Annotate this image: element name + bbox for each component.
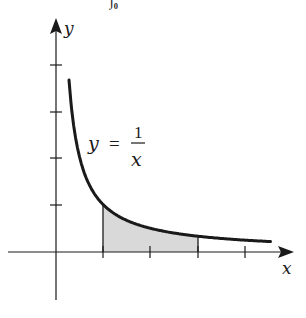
- equation-equals: =: [109, 133, 120, 154]
- equation-label: y = 1 x: [87, 123, 145, 170]
- equation-numerator: 1: [134, 123, 143, 142]
- equation-lhs: y: [87, 132, 99, 154]
- equation-denominator: x: [131, 148, 142, 170]
- x-axis-label: x: [282, 258, 292, 278]
- hyperbola-figure: ∫₀ y x y = 1 x: [0, 0, 306, 318]
- y-axis-label: y: [63, 18, 74, 38]
- top-cropped-text: ∫₀: [109, 0, 118, 10]
- hyperbola-curve: [69, 80, 271, 242]
